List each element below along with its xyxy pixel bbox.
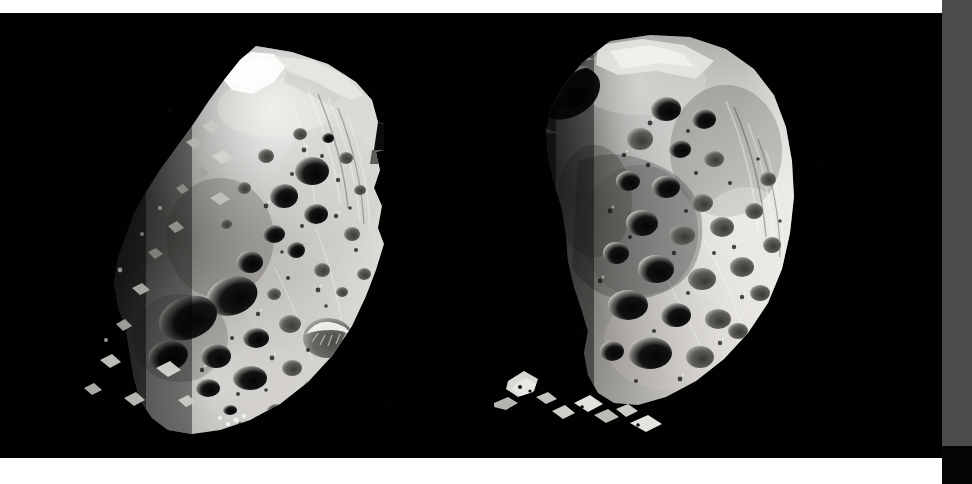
bottom-white-band [0,458,942,484]
phoebe-right-view [490,31,810,441]
photograph-canvas [0,13,942,458]
phoebe-left-view [60,38,400,438]
right-lower-black-strip [942,446,972,484]
phoebe-right-body [490,31,810,441]
right-gray-edge-strip [942,0,972,446]
photograph-inner [0,13,942,458]
phoebe-left-body [60,38,400,438]
screenshot-root [0,0,972,484]
crater-scalloped-rim [303,318,353,358]
top-white-band [0,0,972,13]
